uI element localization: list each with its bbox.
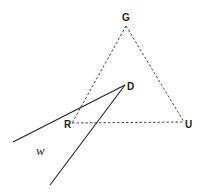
label-U: U [185,119,192,130]
label-D: D [127,81,134,92]
ray-1 [13,85,125,142]
triangle-GRU [72,26,184,123]
wedge-w [13,85,125,185]
label-G: G [122,12,130,23]
label-R: R [64,119,72,130]
edge-RU [72,122,184,123]
edge-GU [126,26,184,122]
ray-2 [50,85,125,185]
diagram-canvas: G D R U w [0,0,203,192]
label-w: w [36,143,45,158]
